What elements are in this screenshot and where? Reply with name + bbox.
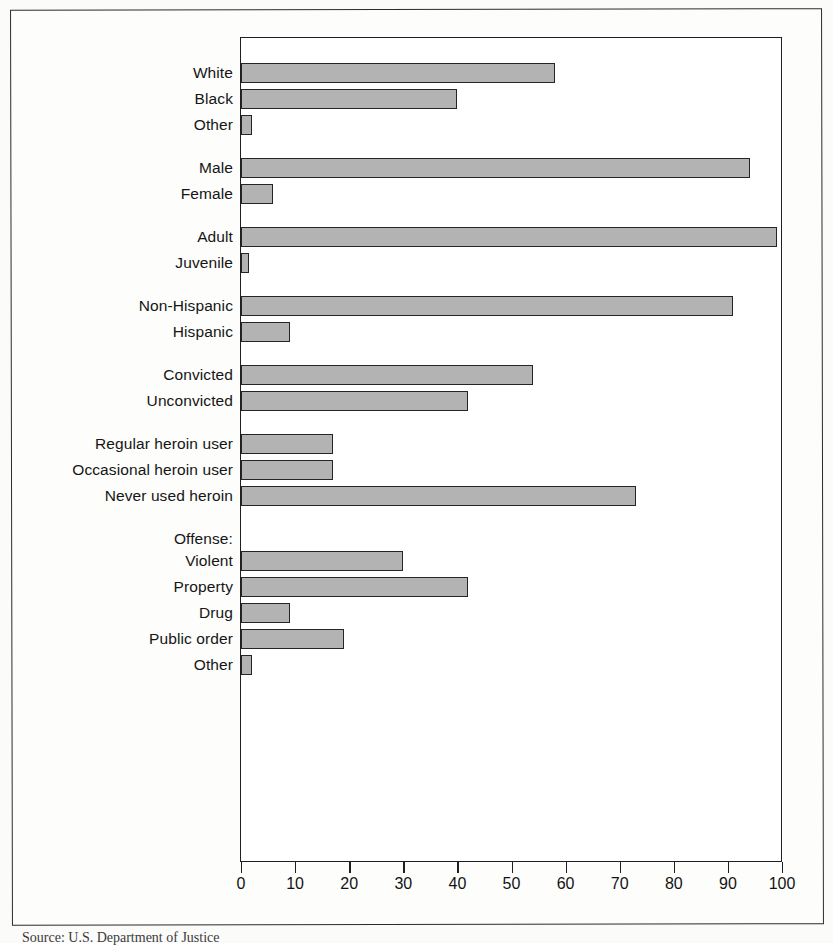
x-tick-label: 80 (665, 875, 683, 893)
bar-regular-heroin-user (241, 434, 333, 454)
bar-white (241, 63, 555, 83)
x-tick-label: 10 (286, 875, 304, 893)
bar-row: Convicted (0, 362, 833, 388)
x-tick (728, 862, 729, 873)
bar-label-never-used-heroin: Never used heroin (0, 483, 233, 509)
x-tick-label: 70 (611, 875, 629, 893)
bar-label-violent: Violent (0, 548, 233, 574)
bar-label-other: Other (0, 112, 233, 138)
bar-public-order (241, 629, 344, 649)
x-tick (674, 862, 675, 873)
bar-label-juvenile: Juvenile (0, 250, 233, 276)
bar-label-non-hispanic: Non-Hispanic (0, 293, 233, 319)
bar-property (241, 577, 468, 597)
bar-row: Adult (0, 224, 833, 250)
bar-label-adult: Adult (0, 224, 233, 250)
bar-black (241, 89, 457, 109)
bar-row: Other (0, 652, 833, 678)
bar-row: Regular heroin user (0, 431, 833, 457)
bar-non-hispanic (241, 296, 733, 316)
bar-label-regular-heroin-user: Regular heroin user (0, 431, 233, 457)
bar-label-other: Other (0, 652, 233, 678)
x-tick (403, 862, 404, 873)
x-tick (349, 862, 350, 873)
bar-row: Public order (0, 626, 833, 652)
bar-label-hispanic: Hispanic (0, 319, 233, 345)
bar-row: Other (0, 112, 833, 138)
bar-row: Property (0, 574, 833, 600)
bar-other (241, 655, 252, 675)
bar-row: Occasional heroin user (0, 457, 833, 483)
bar-label-convicted: Convicted (0, 362, 233, 388)
bar-male (241, 158, 750, 178)
bar-other (241, 115, 252, 135)
bar-row: Female (0, 181, 833, 207)
bar-label-unconvicted: Unconvicted (0, 388, 233, 414)
bar-hispanic (241, 322, 290, 342)
bar-label-male: Male (0, 155, 233, 181)
bar-female (241, 184, 273, 204)
bar-row: Black (0, 86, 833, 112)
bar-label-black: Black (0, 86, 233, 112)
bar-label-drug: Drug (0, 600, 233, 626)
bar-label-public-order: Public order (0, 626, 233, 652)
x-tick (620, 862, 621, 873)
x-tick (566, 862, 567, 873)
bar-row: Juvenile (0, 250, 833, 276)
x-tick-label: 60 (557, 875, 575, 893)
bar-label-female: Female (0, 181, 233, 207)
x-tick-label: 100 (769, 875, 796, 893)
bar-label-white: White (0, 60, 233, 86)
x-tick (512, 862, 513, 873)
x-tick-label: 30 (394, 875, 412, 893)
bar-row: Unconvicted (0, 388, 833, 414)
bar-row: Non-Hispanic (0, 293, 833, 319)
x-axis: 0102030405060708090100 (240, 862, 782, 908)
x-tick (457, 862, 458, 873)
bar-row: Violent (0, 548, 833, 574)
bar-convicted (241, 365, 533, 385)
bar-adult (241, 227, 777, 247)
bar-never-used-heroin (241, 486, 636, 506)
x-tick-label: 50 (503, 875, 521, 893)
bar-drug (241, 603, 290, 623)
x-tick (241, 862, 242, 873)
bar-row: Hispanic (0, 319, 833, 345)
x-tick (295, 862, 296, 873)
bar-row: Never used heroin (0, 483, 833, 509)
bar-row: Drug (0, 600, 833, 626)
bar-juvenile (241, 253, 249, 273)
bar-label-occasional-heroin-user: Occasional heroin user (0, 457, 233, 483)
x-tick-label: 20 (340, 875, 358, 893)
source-caption: Source: U.S. Department of Justice (22, 930, 220, 946)
bar-row: Male (0, 155, 833, 181)
x-tick-label: 90 (719, 875, 737, 893)
bar-violent (241, 551, 403, 571)
x-tick-label: 0 (237, 875, 246, 893)
x-tick (782, 862, 783, 873)
bar-row: White (0, 60, 833, 86)
bar-unconvicted (241, 391, 468, 411)
bar-occasional-heroin-user (241, 460, 333, 480)
bar-label-property: Property (0, 574, 233, 600)
x-tick-label: 40 (448, 875, 466, 893)
